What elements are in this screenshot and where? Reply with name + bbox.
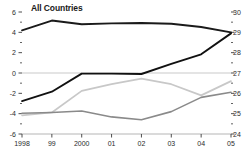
series-line-light-gray-line (22, 79, 231, 116)
x-axis-tick-label: 05 (227, 140, 235, 147)
x-axis-tick-label: 04 (197, 140, 205, 147)
x-axis-tick-label: 1998 (14, 140, 30, 147)
chart-container: All Countries 6420-2-4-6 30292827262524 … (0, 0, 250, 153)
x-axis-tick-label: 02 (138, 140, 146, 147)
x-axis-tick-label: 2000 (74, 140, 90, 147)
x-axis-tick-label: 99 (48, 140, 56, 147)
series-line-mid-gray-line (22, 92, 231, 119)
series-line-dark-rising-line (22, 33, 231, 101)
chart-plot-area (0, 0, 250, 153)
x-axis-tick-label: 03 (167, 140, 175, 147)
series-line-top-line (22, 21, 231, 33)
x-axis-tick-label: 01 (108, 140, 116, 147)
